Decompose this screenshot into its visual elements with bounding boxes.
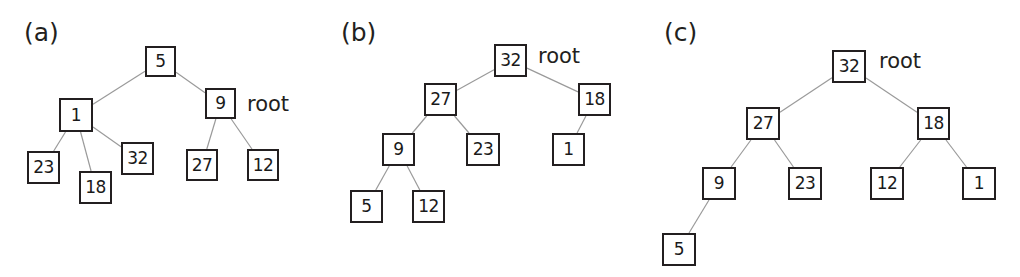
root-label-a: root	[247, 94, 289, 115]
tree-edge	[81, 132, 91, 171]
tree-edge	[731, 140, 751, 167]
tree-edge	[775, 140, 794, 167]
tree-edge	[231, 119, 252, 149]
root-label-b: root	[538, 46, 580, 67]
tree-node-a-18[interactable]: 18	[79, 171, 112, 204]
panel-label-a: (a)	[24, 20, 59, 45]
tree-edge	[457, 70, 494, 91]
tree-node-c-23[interactable]: 23	[788, 167, 822, 200]
tree-edge	[412, 116, 426, 133]
tree-edge	[780, 78, 832, 112]
tree-edge	[866, 78, 917, 112]
root-label-c: root	[879, 51, 921, 72]
tree-edge	[689, 200, 709, 233]
tree-node-b-5[interactable]: 5	[350, 190, 383, 223]
tree-node-c-27[interactable]: 27	[746, 107, 780, 140]
tree-edge	[376, 166, 389, 190]
tree-node-a-1[interactable]: 1	[59, 98, 93, 132]
tree-node-b-27[interactable]: 27	[424, 83, 457, 116]
tree-node-a-32[interactable]: 32	[121, 142, 154, 175]
tree-node-a-9[interactable]: 9	[205, 88, 236, 119]
tree-edge	[946, 140, 966, 167]
tree-node-a-12[interactable]: 12	[247, 149, 279, 181]
tree-edges-layer	[0, 0, 1020, 277]
tree-edge	[207, 119, 216, 149]
tree-node-a-27[interactable]: 27	[186, 149, 218, 181]
tree-node-c-5[interactable]: 5	[662, 233, 696, 266]
tree-diagram-figure: 5192318322712(a)root3227189231512(b)root…	[0, 0, 1020, 277]
tree-node-a-5[interactable]: 5	[145, 46, 176, 77]
tree-node-c-12[interactable]: 12	[870, 167, 904, 200]
tree-node-c-32[interactable]: 32	[832, 50, 866, 83]
panel-label-c: (c)	[664, 20, 697, 45]
tree-edge	[527, 68, 578, 92]
tree-edge	[577, 116, 586, 133]
tree-edge	[54, 132, 66, 151]
tree-node-b-1[interactable]: 1	[552, 133, 585, 166]
tree-edge	[93, 127, 121, 147]
panel-label-b: (b)	[341, 20, 376, 45]
tree-node-b-32[interactable]: 32	[494, 44, 527, 77]
tree-node-c-9[interactable]: 9	[702, 167, 736, 200]
tree-node-c-18[interactable]: 18	[917, 107, 950, 140]
tree-edge	[93, 71, 145, 104]
tree-edge	[176, 72, 205, 92]
tree-node-b-12[interactable]: 12	[412, 190, 445, 223]
tree-node-b-9[interactable]: 9	[382, 133, 415, 166]
tree-edge	[407, 166, 420, 190]
tree-node-b-18[interactable]: 18	[578, 83, 611, 116]
tree-edge	[900, 140, 921, 167]
tree-node-b-23[interactable]: 23	[466, 133, 500, 166]
tree-node-a-23[interactable]: 23	[27, 151, 60, 184]
tree-node-c-1[interactable]: 1	[962, 167, 996, 200]
tree-edge	[455, 116, 469, 133]
